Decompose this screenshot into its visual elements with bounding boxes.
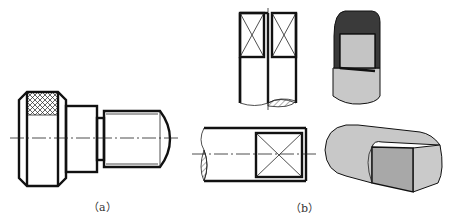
drawing-canvas: （a） [0,0,453,218]
figure-b-horizontal-shaft [192,128,316,181]
knurled-head [19,92,66,186]
break-hatch-horizontal [201,150,207,181]
flat-face-isometric [372,147,413,192]
cylinder-body [333,68,380,104]
shaft-shoulder [66,106,97,172]
figure-a-shaft [10,92,178,186]
break-hatch-vertical [268,99,296,107]
threaded-end [104,111,170,167]
knurl-pattern [28,93,57,115]
label-b: （b） [290,202,319,215]
figure-b-isometric-vertical [333,11,380,104]
figure-b-vertical-shaft [240,8,296,110]
label-a: （a） [88,201,117,214]
figure-b-isometric-horizontal [325,125,442,192]
end-cap [413,145,442,192]
flat-face [340,34,375,68]
